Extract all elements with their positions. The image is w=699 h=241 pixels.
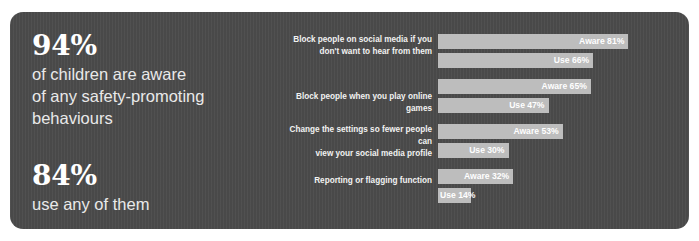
group-label-line-1: Block people when you play online games <box>284 91 432 115</box>
stat-desc-usage-line-1: use any of them <box>32 194 292 216</box>
stat-desc-line-1: of children are aware <box>32 64 292 86</box>
chart-group-reporting-flagging: Reporting or flagging function Aware 32%… <box>295 169 673 207</box>
stat-value-84: 84% <box>32 160 292 191</box>
group-label-block-social-media: Block people on social media if you don'… <box>284 34 432 58</box>
bar-label-use-66: Use 66% <box>554 53 593 68</box>
bar-group: Aware 65% Use 47% <box>438 79 673 117</box>
bar-chart: Block people on social media if you don'… <box>295 34 673 216</box>
group-label-reporting-flagging: Reporting or flagging function <box>284 175 432 187</box>
bar-row-use: Use 30% <box>438 143 673 158</box>
stats-panel: 94% of children are aware of any safety-… <box>32 30 292 216</box>
bar-label-use-14: Use 14% <box>440 188 475 203</box>
bar-group: Aware 53% Use 30% <box>438 124 673 162</box>
bar-group: Aware 81% Use 66% <box>438 34 673 72</box>
bar-row-use: Use 66% <box>438 53 673 68</box>
bar-row-aware: Aware 53% <box>438 124 673 139</box>
group-label-line-1: Change the settings so fewer people can <box>284 124 432 148</box>
bar-row-use: Use 47% <box>438 98 673 113</box>
infographic-card: 94% of children are aware of any safety-… <box>10 12 689 229</box>
bar-row-use: Use 14% <box>438 188 673 203</box>
stat-description-usage: use any of them <box>32 194 292 216</box>
stat-value-94: 94% <box>32 30 292 61</box>
bar-label-use-47: Use 47% <box>509 98 548 113</box>
group-label-line-2: don't want to hear from them <box>284 46 432 58</box>
bar-row-aware: Aware 65% <box>438 79 673 94</box>
group-label-block-online-games: Block people when you play online games <box>284 91 432 115</box>
chart-group-block-social-media: Block people on social media if you don'… <box>295 34 673 72</box>
bar-label-aware-53: Aware 53% <box>513 124 562 139</box>
stat-description-awareness: of children are aware of any safety-prom… <box>32 64 292 129</box>
group-label-change-settings: Change the settings so fewer people can … <box>284 124 432 160</box>
stat-desc-line-3: behaviours <box>32 108 292 130</box>
group-label-line-1: Reporting or flagging function <box>284 175 432 187</box>
bar-row-aware: Aware 81% <box>438 34 673 49</box>
bar-label-use-30: Use 30% <box>469 143 508 158</box>
bar-group: Aware 32% Use 14% <box>438 169 673 207</box>
chart-group-block-online-games: Block people when you play online games … <box>295 79 673 117</box>
bar-row-aware: Aware 32% <box>438 169 673 184</box>
bar-label-aware-81: Aware 81% <box>579 34 628 49</box>
stat-desc-line-2: of any safety-promoting <box>32 86 292 108</box>
chart-group-change-settings: Change the settings so fewer people can … <box>295 124 673 162</box>
bar-label-aware-65: Aware 65% <box>542 79 591 94</box>
stat-block-usage: 84% use any of them <box>32 160 292 216</box>
group-label-line-1: Block people on social media if you <box>284 34 432 46</box>
bar-label-aware-32: Aware 32% <box>464 169 513 184</box>
stat-block-awareness: 94% of children are aware of any safety-… <box>32 30 292 130</box>
group-label-line-2: view your social media profile <box>284 148 432 160</box>
